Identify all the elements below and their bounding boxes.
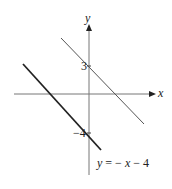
tick-label-neg4: −4 (73, 127, 86, 139)
equation-tail: − 4 (130, 156, 149, 170)
graph-figure: y x 3 −4 y = − x − 4 (0, 0, 172, 189)
x-axis-label: x (158, 87, 163, 99)
upper-line (61, 38, 144, 124)
equation-equals: = − (102, 156, 125, 170)
tick-label-3: 3 (81, 60, 87, 72)
y-axis-arrow-icon (86, 24, 92, 31)
x-axis-arrow-icon (149, 91, 156, 97)
equation-label: y = − x − 4 (97, 157, 149, 169)
y-axis-label: y (85, 12, 90, 24)
